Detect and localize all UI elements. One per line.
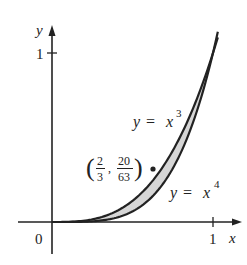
label-y-equals-x-cubed: y = x 3 — [131, 107, 182, 131]
svg-text:(: ( — [86, 153, 95, 182]
svg-text:y: y — [168, 184, 178, 202]
origin-label: 0 — [35, 231, 43, 247]
y-axis-label: y — [34, 22, 43, 38]
y-tick-label: 1 — [36, 46, 44, 62]
svg-text:): ) — [134, 153, 143, 182]
svg-text:3: 3 — [176, 107, 182, 119]
svg-text:x: x — [165, 113, 173, 130]
svg-text:20: 20 — [118, 154, 130, 168]
svg-text:=: = — [146, 113, 155, 130]
graph-figure: y 1 0 1 x y = x 3 y = x 4 ( 2 3 , 20 63 … — [0, 0, 247, 265]
point-marker — [150, 166, 155, 171]
point-annotation: ( 2 3 , 20 63 ) — [86, 153, 143, 184]
svg-text:63: 63 — [118, 170, 130, 184]
x-axis-arrow-icon — [232, 219, 242, 226]
svg-text:y: y — [131, 113, 141, 131]
svg-text:x: x — [202, 184, 210, 201]
svg-text:2: 2 — [97, 154, 103, 168]
x-tick-label: 1 — [209, 231, 217, 247]
svg-text:3: 3 — [97, 170, 103, 184]
y-axis-arrow-icon — [49, 25, 56, 36]
svg-text:,: , — [108, 161, 111, 175]
svg-text:=: = — [183, 184, 192, 201]
x-axis-label: x — [228, 230, 236, 246]
svg-text:4: 4 — [214, 178, 220, 190]
label-y-equals-x-fourth: y = x 4 — [168, 178, 220, 202]
